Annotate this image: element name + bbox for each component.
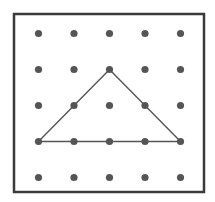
peg — [141, 66, 148, 73]
peg — [141, 102, 148, 109]
peg — [35, 174, 42, 181]
peg — [106, 30, 113, 37]
peg — [177, 138, 184, 145]
peg — [35, 30, 42, 37]
peg — [106, 102, 113, 109]
geoboard-canvas — [0, 0, 215, 202]
peg — [141, 30, 148, 37]
geoboard-figure — [0, 0, 215, 202]
peg — [35, 102, 42, 109]
peg — [70, 30, 77, 37]
peg — [177, 30, 184, 37]
peg — [141, 138, 148, 145]
peg — [177, 174, 184, 181]
peg — [35, 66, 42, 73]
peg — [70, 174, 77, 181]
peg — [106, 66, 113, 73]
peg — [35, 138, 42, 145]
peg — [177, 66, 184, 73]
peg — [177, 102, 184, 109]
peg — [106, 174, 113, 181]
peg — [141, 174, 148, 181]
peg — [70, 66, 77, 73]
peg — [106, 138, 113, 145]
peg — [70, 138, 77, 145]
peg — [70, 102, 77, 109]
